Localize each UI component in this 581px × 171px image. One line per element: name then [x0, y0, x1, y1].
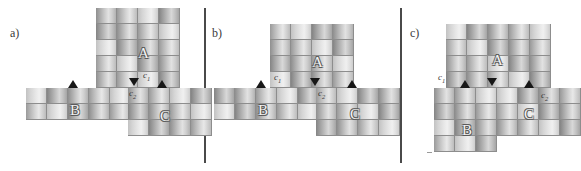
grid-cell: [488, 56, 509, 72]
grid-cell: [333, 56, 354, 72]
panel-a-block-a: [96, 8, 180, 88]
grid-cell: [446, 56, 467, 72]
panel-a-contact-c1: c1: [143, 70, 150, 82]
grid-cell: [117, 24, 138, 40]
grid-cell: [539, 104, 560, 120]
panel-b-marker-up-b: [256, 80, 266, 88]
grid-cell: [333, 24, 354, 40]
grid-cell: [539, 120, 560, 136]
grid-cell: [467, 56, 488, 72]
grid-cell: [497, 120, 518, 136]
panel-c-block-a: [446, 24, 551, 88]
grid-cell: [455, 88, 476, 104]
panel-c-marker-up-c: [524, 80, 534, 88]
panel-b-block-b: [214, 88, 319, 120]
grid-cell: [530, 24, 551, 40]
grid-cell: [128, 120, 149, 136]
grid-cell: [333, 40, 354, 56]
grid-cell: [159, 56, 180, 72]
grid-cell: [316, 120, 337, 136]
contact-subscript: 1: [147, 75, 150, 82]
grid-cell: [518, 120, 539, 136]
grid-cell: [270, 24, 291, 40]
contact-subscript: 2: [322, 93, 325, 100]
grid-cell: [312, 24, 333, 40]
grid-cell: [358, 104, 379, 120]
grid-cell: [509, 24, 530, 40]
grid-cell: [337, 120, 358, 136]
panel-b-contact-c2: c2: [318, 88, 325, 100]
grid-cell: [488, 24, 509, 40]
contact-subscript: 1: [442, 77, 445, 84]
grid-cell: [560, 120, 581, 136]
grid-cell: [455, 136, 476, 152]
grid-cell: [26, 88, 47, 104]
grid-cell: [170, 104, 191, 120]
grid-cell: [96, 56, 117, 72]
grid-cell: [518, 88, 539, 104]
panel-c-marker-down-a: [487, 78, 497, 86]
panel-a-block-b: [26, 88, 131, 120]
grid-cell: [277, 88, 298, 104]
grid-cell: [214, 88, 235, 104]
grid-cell: [488, 40, 509, 56]
grid-cell: [291, 56, 312, 72]
panel-c-tick-mark: [427, 152, 432, 153]
grid-cell: [138, 40, 159, 56]
grid-cell: [497, 88, 518, 104]
grid-cell: [358, 120, 379, 136]
grid-cell: [96, 24, 117, 40]
grid-cell: [337, 88, 358, 104]
grid-cell: [149, 104, 170, 120]
grid-cell: [191, 104, 212, 120]
panel-b-marker-up-c: [347, 80, 357, 88]
grid-cell: [316, 104, 337, 120]
grid-cell: [117, 56, 138, 72]
grid-cell: [128, 104, 149, 120]
grid-cell: [149, 88, 170, 104]
panel-c-block-b: [434, 88, 497, 152]
grid-cell: [96, 40, 117, 56]
grid-cell: [214, 104, 235, 120]
grid-cell: [191, 88, 212, 104]
grid-cell: [149, 120, 170, 136]
grid-cell: [68, 88, 89, 104]
panel-a-contact-c2: c2: [129, 88, 136, 100]
grid-cell: [476, 136, 497, 152]
grid-cell: [270, 40, 291, 56]
contact-subscript: 1: [278, 77, 281, 84]
grid-cell: [277, 104, 298, 120]
grid-cell: [68, 104, 89, 120]
grid-cell: [434, 120, 455, 136]
grid-cell: [235, 104, 256, 120]
grid-cell: [291, 40, 312, 56]
grid-cell: [170, 120, 191, 136]
grid-cell: [291, 24, 312, 40]
grid-cell: [138, 24, 159, 40]
grid-cell: [138, 8, 159, 24]
grid-cell: [446, 40, 467, 56]
panel-b-marker-down-c1: [310, 78, 320, 86]
panel-a-block-c: [128, 88, 212, 136]
grid-cell: [455, 120, 476, 136]
grid-cell: [26, 104, 47, 120]
grid-cell: [434, 136, 455, 152]
grid-cell: [434, 104, 455, 120]
grid-cell: [235, 88, 256, 104]
grid-cell: [467, 40, 488, 56]
panel-a-marker-up-c: [157, 80, 167, 88]
grid-cell: [560, 88, 581, 104]
grid-cell: [96, 72, 117, 88]
grid-cell: [467, 72, 488, 88]
panel-a-marker-down-c2: [129, 78, 139, 86]
grid-cell: [379, 104, 400, 120]
grid-cell: [530, 40, 551, 56]
grid-cell: [291, 72, 312, 88]
panel-a-marker-up-b: [68, 80, 78, 88]
panel-c-contact-c2: c2: [541, 90, 548, 102]
contact-subscript: 2: [545, 95, 548, 102]
grid-cell: [497, 104, 518, 120]
grid-cell: [476, 104, 497, 120]
grid-cell: [96, 8, 117, 24]
